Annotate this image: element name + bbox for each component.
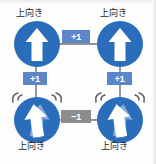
shake-marks-right-icon xyxy=(52,93,61,102)
node-top-right[interactable] xyxy=(97,21,143,67)
shake-marks-left-icon xyxy=(13,93,22,102)
node-label-bottom-right: 上向き xyxy=(101,141,127,152)
edge-weight-badge-top[interactable]: +1 xyxy=(62,30,90,43)
node-top-left[interactable] xyxy=(14,21,60,67)
node-label-top-left: 上向き xyxy=(16,8,42,19)
edge-weight-badge-right[interactable]: +1 xyxy=(107,72,132,85)
node-bottom-left[interactable] xyxy=(13,93,62,143)
edge-weight-badge-left[interactable]: +1 xyxy=(23,72,47,85)
node-label-bottom-left: 上向き xyxy=(18,141,44,152)
shake-marks-left-icon xyxy=(96,93,105,102)
node-label-top-right: 上向き xyxy=(100,8,126,19)
node-bottom-right[interactable] xyxy=(96,93,145,143)
diagram-canvas: 上向き 上向き 上向き 上向き +1 +1 +1 −1 xyxy=(0,0,156,164)
edge-weight-badge-bottom[interactable]: −1 xyxy=(61,110,91,123)
shake-marks-right-icon xyxy=(135,93,144,102)
